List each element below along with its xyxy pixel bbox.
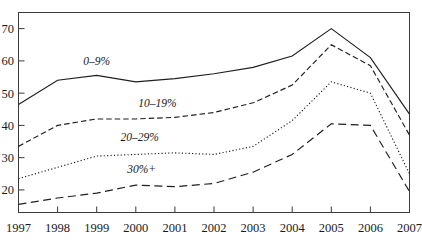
series-label-4: 30%+ [126, 163, 156, 175]
y-tick-label: 30 [2, 151, 15, 165]
y-axis-ticks [19, 29, 25, 190]
x-tick-label: 2003 [241, 221, 266, 235]
y-tick-label: 60 [2, 54, 15, 68]
series-label-3: 20–29% [121, 131, 159, 143]
x-tick-label: 1999 [84, 221, 109, 235]
y-tick-label: 20 [2, 183, 15, 197]
chart-canvas: 203040506070 199719981999200020012002200… [0, 0, 422, 250]
y-tick-label: 40 [2, 119, 15, 133]
series-label-1: 0–9% [83, 55, 110, 67]
x-axis-tick-labels: 1997199819992000200120022003200420052006… [6, 221, 422, 235]
x-tick-label: 2004 [280, 221, 306, 235]
x-tick-label: 2006 [358, 221, 383, 235]
x-tick-label: 1998 [45, 221, 70, 235]
x-tick-label: 2001 [162, 221, 187, 235]
series-lines [19, 29, 410, 205]
x-tick-label: 2007 [397, 221, 422, 235]
line-chart: 203040506070 199719981999200020012002200… [0, 0, 422, 250]
series-line-4 [19, 124, 410, 205]
y-axis-tick-labels: 203040506070 [2, 22, 15, 197]
y-tick-label: 50 [2, 87, 15, 101]
series-line-2 [19, 45, 410, 147]
series-label-2: 10–19% [138, 97, 176, 109]
x-tick-label: 2005 [319, 221, 344, 235]
x-axis-ticks [58, 207, 371, 213]
x-tick-label: 1997 [6, 221, 31, 235]
x-tick-label: 2000 [123, 221, 148, 235]
series-line-3 [19, 82, 410, 179]
y-tick-label: 70 [2, 22, 15, 36]
series-line-1 [19, 29, 410, 114]
x-tick-label: 2002 [202, 221, 227, 235]
